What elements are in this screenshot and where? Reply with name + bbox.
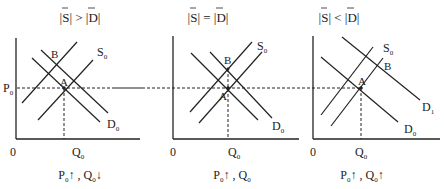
demand-curve-d0 [210, 52, 272, 118]
panel-surplus: |S| > |D| A B S0 D0 0 Q0 P0↑ , Q0↓ [10, 10, 140, 184]
point-b-label: B [384, 60, 391, 72]
curve-label-d0: D0 [272, 119, 285, 135]
point-b-label: B [51, 48, 58, 60]
supply-curve-shifted [22, 42, 77, 103]
point-a-label: A [60, 76, 68, 88]
origin-label: 0 [310, 145, 316, 159]
panel-shortage: |S| < |D| A B S0 D1 D0 0 Q0 P0↑ , Q0↑ [310, 10, 440, 184]
equilibrium-point-b [227, 68, 230, 71]
origin-label: 0 [10, 145, 16, 159]
panel-2-caption: P0↑ , Q0 [213, 168, 251, 184]
panel-balanced: |S| = |D| A B S0 D0 0 Q0 P0↑ , Q0 [170, 10, 299, 184]
point-a-label: A [358, 75, 366, 87]
panel-3-caption: P0↑ , Q0↑ [340, 168, 383, 184]
panel-2-title: |S| = |D| [188, 10, 229, 25]
q0-label: Q0 [228, 145, 241, 161]
demand-curve-d1 [342, 37, 420, 100]
q0-label: Q0 [72, 145, 85, 161]
panel-1-title: |S| > |D| [60, 10, 101, 25]
panel-1-caption: P0↑ , Q0↓ [58, 168, 101, 184]
origin-label: 0 [170, 145, 176, 159]
curve-label-d0: D0 [404, 122, 417, 138]
curve-label-s0: S0 [257, 39, 268, 55]
curve-label-d1: D1 [422, 100, 435, 116]
point-a-label: A [219, 90, 227, 102]
point-b-label: B [224, 54, 231, 66]
curve-label-s0: S0 [383, 41, 394, 57]
demand-curve [32, 58, 100, 122]
curve-label-d0: D0 [107, 117, 120, 133]
p0-axis-label: P0 [3, 81, 14, 97]
supply-demand-diagram: P0 |S| > |D| A B S0 D0 0 Q0 P0↑ , Q0↓ |S… [0, 0, 444, 189]
panel-3-title: |S| < |D| [319, 10, 360, 25]
curve-label-s0: S0 [97, 45, 108, 61]
q0-label: Q0 [355, 145, 368, 161]
